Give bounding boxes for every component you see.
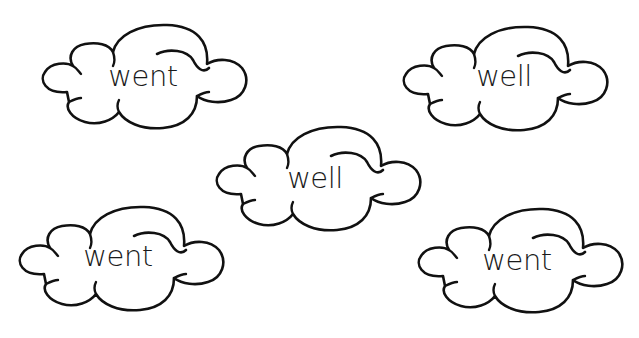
cloud-word: went	[12, 242, 224, 271]
cloud-word: well	[209, 164, 421, 193]
cloud-well-center: well	[211, 124, 423, 234]
cloud-word: went	[411, 246, 623, 275]
cloud-word: well	[398, 62, 610, 91]
cloud-went-bottom-left: went	[14, 204, 226, 314]
cloud-well-top-right: well	[398, 24, 610, 134]
cloud-word: went	[37, 62, 249, 91]
cloud-went-bottom-right: went	[413, 206, 625, 316]
cloud-went-top-left: went	[37, 22, 249, 132]
